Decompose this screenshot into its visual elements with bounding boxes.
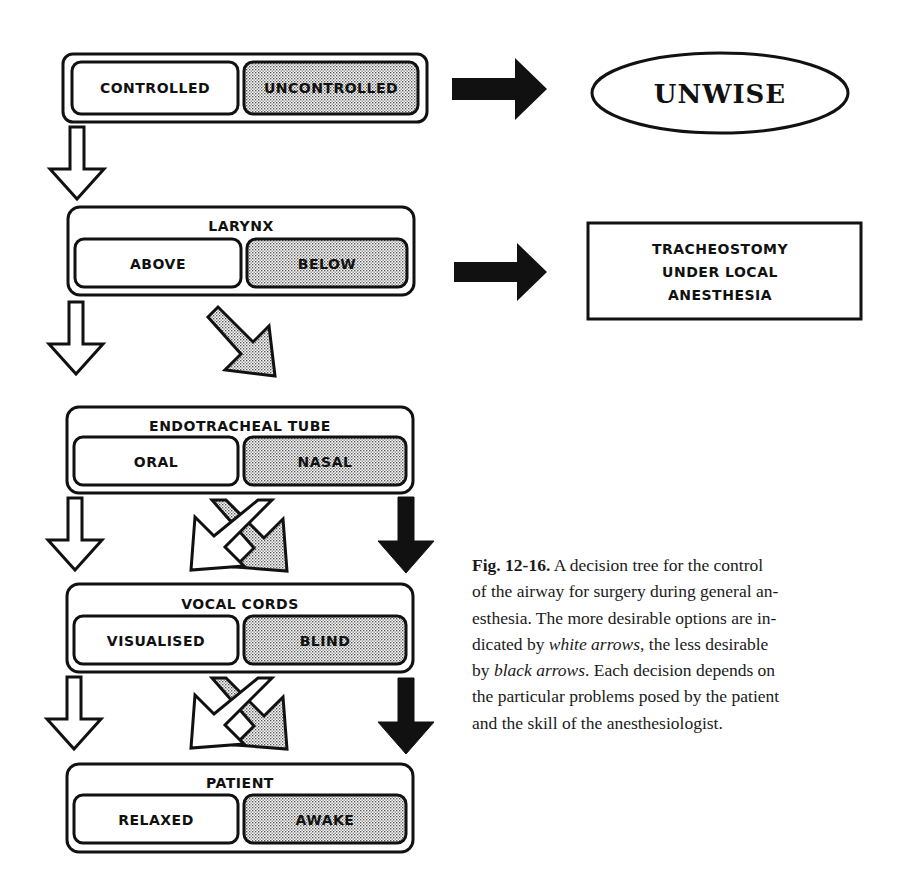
node-patient: PATIENT RELAXED AWAKE xyxy=(67,764,413,852)
option-relaxed-label: RELAXED xyxy=(118,812,194,828)
node-larynx-header: LARYNX xyxy=(208,218,273,234)
white-down-arrow-4 xyxy=(47,677,101,749)
option-below-label: BELOW xyxy=(298,256,357,272)
caption-black-arrows: black arrows xyxy=(494,660,585,680)
option-visualised-label: VISUALISED xyxy=(107,633,205,649)
tracheostomy-line-2: UNDER LOCAL xyxy=(662,264,778,280)
crossed-arrows-1 xyxy=(191,500,287,571)
caption-text-1: A decision tree for the control xyxy=(550,555,763,575)
caption-line-1: Fig. 12-16. A decision tree for the cont… xyxy=(472,552,912,578)
caption-line-4: dicated by white arrows, the less desira… xyxy=(472,631,912,657)
caption-text-4a: dicated by xyxy=(472,634,549,654)
node-larynx: LARYNX ABOVE BELOW xyxy=(68,207,414,295)
node-tube-header: ENDOTRACHEAL TUBE xyxy=(149,418,331,434)
node-vocal-cords: VOCAL CORDS VISUALISED BLIND xyxy=(67,584,413,672)
caption-line-6: the particular problems posed by the pat… xyxy=(472,683,912,709)
caption-text-5b: . Each decision depends on xyxy=(585,660,775,680)
caption-figure-label: Fig. 12-16. xyxy=(472,555,550,575)
black-right-arrow-tracheostomy xyxy=(454,243,547,301)
black-right-arrow-unwise xyxy=(452,58,547,120)
black-down-arrow-2 xyxy=(378,678,434,754)
option-nasal-label: NASAL xyxy=(298,454,353,470)
white-down-arrow-1 xyxy=(50,127,104,199)
caption-white-arrows: white arrows xyxy=(549,634,640,654)
tracheostomy-line-1: TRACHEOSTOMY xyxy=(652,241,789,257)
option-oral-label: ORAL xyxy=(134,454,178,470)
node-control: CONTROLLED UNCONTROLLED xyxy=(63,54,427,122)
crossed-arrows-2 xyxy=(191,678,287,749)
figure-caption: Fig. 12-16. A decision tree for the cont… xyxy=(472,552,912,736)
outcome-unwise-label: UNWISE xyxy=(654,79,786,109)
caption-line-3: esthesia. The more desirable options are… xyxy=(472,605,912,631)
caption-text-5a: by xyxy=(472,660,494,680)
outcome-unwise: UNWISE xyxy=(592,53,848,133)
decision-tree-diagram: CONTROLLED UNCONTROLLED UNWISE LARYNX AB… xyxy=(0,0,915,887)
caption-line-7: and the skill of the anesthesiologist. xyxy=(472,710,912,736)
white-down-arrow-3 xyxy=(48,498,102,570)
node-cords-header: VOCAL CORDS xyxy=(181,596,299,612)
caption-line-5: by black arrows. Each decision depends o… xyxy=(472,657,912,683)
option-above-label: ABOVE xyxy=(130,256,186,272)
option-controlled-label: CONTROLLED xyxy=(100,80,210,96)
shaded-diagonal-arrow-larynx xyxy=(208,307,275,376)
outcome-tracheostomy: TRACHEOSTOMY UNDER LOCAL ANESTHESIA xyxy=(588,223,861,319)
node-endotracheal-tube: ENDOTRACHEAL TUBE ORAL NASAL xyxy=(67,407,413,493)
option-uncontrolled-label: UNCONTROLLED xyxy=(264,80,398,96)
black-down-arrow-1 xyxy=(378,497,434,573)
caption-line-2: of the airway for surgery during general… xyxy=(472,578,912,604)
option-awake-label: AWAKE xyxy=(296,812,355,828)
tracheostomy-line-3: ANESTHESIA xyxy=(668,287,772,303)
white-down-arrow-2 xyxy=(49,302,103,374)
node-patient-header: PATIENT xyxy=(206,775,274,791)
option-blind-label: BLIND xyxy=(300,633,351,649)
caption-text-4b: , the less desirable xyxy=(640,634,768,654)
